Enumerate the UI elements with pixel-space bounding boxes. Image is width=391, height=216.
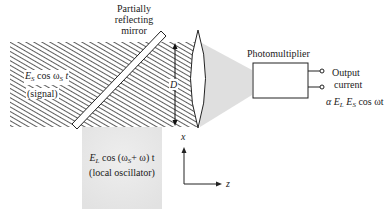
- output-label-line2: current: [334, 79, 362, 90]
- z-axis-label: z: [226, 178, 230, 189]
- x-axis-label: x: [181, 131, 185, 142]
- coordinate-axes: [182, 147, 223, 187]
- mirror-label-line2: reflecting: [104, 14, 164, 25]
- output-label-line1: Output: [332, 67, 360, 78]
- local-oscillator-expression: EL cos (ωS+ ω) t: [82, 152, 162, 167]
- signal-expression: ES cos ωS t: [24, 70, 69, 85]
- aperture-label: D: [169, 79, 178, 90]
- local-oscillator-label: (local oscillator): [82, 167, 162, 178]
- mirror-label-line1: Partially: [104, 3, 164, 14]
- focus-cone: [200, 42, 252, 127]
- signal-label: (signal): [26, 88, 59, 99]
- photomultiplier-label: Photomultiplier: [247, 48, 310, 59]
- output-leads: [308, 69, 324, 89]
- photomultiplier-box: [253, 63, 308, 98]
- mirror-label: Partially reflecting mirror: [104, 3, 164, 36]
- mirror-label-line3: mirror: [104, 25, 164, 36]
- output-proportionality: α EL ES cos ωt: [326, 96, 384, 111]
